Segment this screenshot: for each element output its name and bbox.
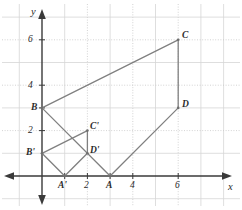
vertex-label-B-prime: B' bbox=[26, 148, 35, 158]
vertex-label-A-prime: A' bbox=[58, 181, 67, 191]
vertex-label-C-prime: C' bbox=[90, 122, 99, 132]
y-axis-arrow-down bbox=[38, 195, 46, 205]
vertex-label-C: C bbox=[182, 31, 188, 41]
vertex-label-D-prime: D' bbox=[90, 146, 100, 156]
grid-lines-horizontal bbox=[2, 17, 240, 199]
y-axis-label: y bbox=[31, 7, 36, 18]
vertex-label-A: A bbox=[106, 181, 112, 191]
x-tick-label-2: 2 bbox=[84, 181, 89, 191]
x-tick-label-6: 6 bbox=[175, 181, 180, 191]
x-axis-arrow-right bbox=[222, 172, 232, 180]
x-tick-label-4: 4 bbox=[130, 181, 135, 191]
x-axis-arrow-left bbox=[4, 172, 14, 180]
y-tick-label-2: 2 bbox=[28, 126, 33, 136]
vertex-label-D: D bbox=[182, 100, 189, 110]
x-axis-label: x bbox=[228, 182, 233, 193]
coordinate-plane-figure: y x 6 4 2 2 4 6 C D B A C' D' B' A' bbox=[0, 0, 242, 210]
y-axis-arrow-up bbox=[38, 9, 46, 19]
vertex-label-B: B bbox=[31, 103, 37, 113]
x-axis bbox=[4, 172, 232, 180]
y-tick-label-4: 4 bbox=[28, 81, 33, 91]
y-tick-label-6: 6 bbox=[28, 35, 33, 45]
